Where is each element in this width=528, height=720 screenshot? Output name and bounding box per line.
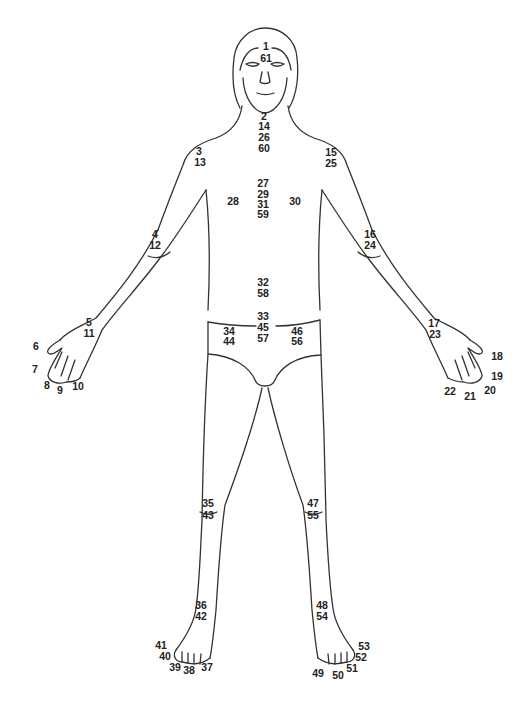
point-label: 25 xyxy=(325,158,337,169)
nose xyxy=(260,72,270,84)
left-shoulder xyxy=(158,106,242,230)
point-label: 43 xyxy=(202,510,214,521)
left-arm-outer xyxy=(60,230,158,340)
point-label: 23 xyxy=(429,329,441,340)
left-fingers xyxy=(55,352,75,380)
point-label: 56 xyxy=(291,336,303,347)
body-diagram: 1612142660313152527292831305941216243258… xyxy=(0,0,528,720)
point-label: 39 xyxy=(169,662,181,673)
torso-right xyxy=(319,190,322,310)
point-label: 47 xyxy=(307,498,319,509)
point-label: 57 xyxy=(257,333,269,344)
point-label: 44 xyxy=(223,336,235,347)
left-eye xyxy=(246,63,259,67)
point-label: 37 xyxy=(201,662,213,673)
right-hand xyxy=(448,340,482,383)
point-label: 6 xyxy=(33,341,39,352)
left-leg-inner xyxy=(210,388,262,658)
point-label: 12 xyxy=(149,240,161,251)
point-label: 13 xyxy=(194,157,206,168)
right-eye xyxy=(271,63,284,67)
point-label: 35 xyxy=(202,498,214,509)
point-label: 22 xyxy=(444,386,456,397)
point-label: 55 xyxy=(307,510,319,521)
point-label: 38 xyxy=(183,665,195,676)
point-label: 28 xyxy=(227,196,239,207)
point-label: 59 xyxy=(257,209,269,220)
body-outline xyxy=(0,0,528,720)
point-label: 11 xyxy=(83,328,94,339)
point-label: 58 xyxy=(257,288,269,299)
point-label: 42 xyxy=(195,611,207,622)
left-elbow-crease xyxy=(148,252,170,258)
mouth xyxy=(257,93,274,95)
point-label: 19 xyxy=(491,371,503,382)
point-label: 61 xyxy=(260,53,272,64)
torso-left xyxy=(206,190,209,310)
point-label: 8 xyxy=(44,380,50,391)
left-arm-inner xyxy=(80,190,206,378)
point-label: 50 xyxy=(332,670,344,681)
point-label: 54 xyxy=(316,611,328,622)
point-label: 21 xyxy=(464,391,476,402)
point-label: 18 xyxy=(491,351,503,362)
point-label: 1 xyxy=(263,41,269,52)
right-elbow-crease xyxy=(358,252,380,258)
left-hand xyxy=(48,340,80,383)
point-label: 24 xyxy=(364,240,376,251)
right-fingers xyxy=(455,352,475,380)
right-arm-inner xyxy=(322,190,448,378)
right-leg-inner xyxy=(268,388,318,658)
point-label: 60 xyxy=(258,143,270,154)
point-label: 9 xyxy=(57,385,63,396)
point-label: 20 xyxy=(484,385,496,396)
point-label: 10 xyxy=(72,381,84,392)
point-label: 49 xyxy=(312,668,324,679)
point-label: 30 xyxy=(289,196,301,207)
point-label: 7 xyxy=(32,364,38,375)
point-label: 51 xyxy=(346,663,358,674)
